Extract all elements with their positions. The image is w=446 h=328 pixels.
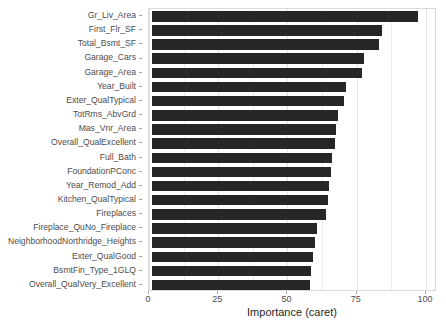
y-tick <box>139 72 142 73</box>
bar-Garage_Cars <box>152 53 364 64</box>
bar-Fireplace_QuNo_Fireplace <box>152 223 317 234</box>
bar-BsmtFin_Type_1GLQ <box>152 266 311 277</box>
y-tick <box>139 270 142 271</box>
y-tick <box>139 86 142 87</box>
y-axis-label-Gr_Liv_Area: Gr_Liv_Area <box>88 8 136 22</box>
y-tick <box>139 185 142 186</box>
y-axis-label-Total_Bsmt_SF: Total_Bsmt_SF <box>78 36 136 50</box>
bar-Garage_Area <box>152 68 362 79</box>
y-tick <box>139 100 142 101</box>
bar-Kitchen_QualTypical <box>152 195 328 206</box>
y-tick <box>139 199 142 200</box>
y-tick <box>139 213 142 214</box>
x-tick-label-75: 75 <box>351 294 361 304</box>
y-axis-label-Garage_Cars: Garage_Cars <box>84 50 136 64</box>
y-tick <box>139 171 142 172</box>
y-tick <box>139 114 142 115</box>
y-axis-label-TotRms_AbvGrd: TotRms_AbvGrd <box>73 107 136 121</box>
y-tick <box>139 227 142 228</box>
x-axis-title: Importance (caret) <box>148 306 436 318</box>
x-tick-label-25: 25 <box>212 294 222 304</box>
y-axis-label-Overall_QualExcellent: Overall_QualExcellent <box>51 135 136 149</box>
bar-FoundationPConc <box>152 167 331 178</box>
y-axis-label-NeighborhoodNorthridge_Heights: NeighborhoodNorthridge_Heights <box>8 234 136 248</box>
y-axis-label-Fireplace_QuNo_Fireplace: Fireplace_QuNo_Fireplace <box>33 220 136 234</box>
x-axis-ticks: 0255075100 <box>148 291 436 303</box>
y-axis-label-Exter_QualTypical: Exter_QualTypical <box>66 93 136 107</box>
x-tick-label-100: 100 <box>417 294 432 304</box>
y-tick <box>139 15 142 16</box>
importance-bar-chart: Gr_Liv_AreaFirst_Flr_SFTotal_Bsmt_SFGara… <box>0 0 446 328</box>
y-axis-label-Garage_Area: Garage_Area <box>84 65 136 79</box>
y-axis-label-Full_Bath: Full_Bath <box>100 150 136 164</box>
y-axis-labels: Gr_Liv_AreaFirst_Flr_SFTotal_Bsmt_SFGara… <box>0 8 142 291</box>
y-axis-label-FoundationPConc: FoundationPConc <box>67 164 136 178</box>
x-tick-label-0: 0 <box>145 294 150 304</box>
y-tick <box>139 128 142 129</box>
bar-Exter_QualGood <box>152 252 313 263</box>
y-tick <box>139 142 142 143</box>
bar-NeighborhoodNorthridge_Heights <box>152 237 315 248</box>
bar-Mas_Vnr_Area <box>152 124 336 135</box>
bar-Overall_QualExcellent <box>152 138 335 149</box>
y-axis-label-First_Flr_SF: First_Flr_SF <box>89 22 136 36</box>
y-axis-label-Mas_Vnr_Area: Mas_Vnr_Area <box>79 121 136 135</box>
y-axis-label-Fireplaces: Fireplaces <box>96 206 136 220</box>
y-tick <box>139 241 142 242</box>
y-axis-label-Kitchen_QualTypical: Kitchen_QualTypical <box>58 192 136 206</box>
bar-Fireplaces <box>152 209 326 220</box>
y-axis-label-Year_Remod_Add: Year_Remod_Add <box>66 178 136 192</box>
y-tick <box>139 157 142 158</box>
y-axis-label-Year_Built: Year_Built <box>97 79 136 93</box>
y-tick <box>139 256 142 257</box>
bar-Year_Remod_Add <box>152 181 329 192</box>
y-tick <box>139 29 142 30</box>
y-axis-label-Overall_QualVery_Excellent: Overall_QualVery_Excellent <box>29 277 136 291</box>
plot-panel <box>148 8 436 291</box>
bar-Year_Built <box>152 82 346 93</box>
bar-Full_Bath <box>152 153 332 164</box>
x-tick-label-50: 50 <box>281 294 291 304</box>
bar-Gr_Liv_Area <box>152 11 418 22</box>
y-tick <box>139 58 142 59</box>
y-tick <box>139 43 142 44</box>
bar-Total_Bsmt_SF <box>152 39 379 50</box>
bar-TotRms_AbvGrd <box>152 110 338 121</box>
bar-Overall_QualVery_Excellent <box>152 280 310 291</box>
bar-Exter_QualTypical <box>152 96 344 107</box>
y-tick <box>139 284 142 285</box>
y-axis-label-BsmtFin_Type_1GLQ: BsmtFin_Type_1GLQ <box>53 263 136 277</box>
y-axis-label-Exter_QualGood: Exter_QualGood <box>72 249 136 263</box>
bars-container <box>149 9 435 290</box>
bar-First_Flr_SF <box>152 25 382 36</box>
